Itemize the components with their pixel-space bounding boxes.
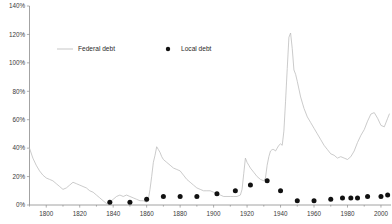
legend-label: Local debt: [181, 45, 212, 52]
data-point: [295, 198, 300, 203]
y-axis-tick-label: 140%: [9, 2, 26, 9]
data-point: [161, 194, 166, 199]
data-point: [385, 193, 390, 198]
x-axis: 1800182018401860188019001920194019601980…: [30, 205, 392, 217]
data-point: [378, 194, 383, 199]
legend-dot-swatch: [166, 47, 170, 51]
x-axis-tick-label: 1940: [274, 210, 289, 217]
x-axis-tick-label: 1800: [39, 210, 54, 217]
x-axis-tick-label: 1960: [307, 210, 322, 217]
x-axis-tick-label: 1880: [173, 210, 188, 217]
data-point: [214, 191, 219, 196]
y-axis-tick-label: 40%: [12, 144, 25, 151]
data-point: [178, 194, 183, 199]
data-point: [365, 194, 370, 199]
chart-legend: Federal debtLocal debt: [57, 45, 212, 52]
data-point: [248, 183, 253, 188]
plot-series: [30, 33, 391, 205]
data-point: [265, 178, 270, 183]
data-point: [233, 188, 238, 193]
x-axis-tick-label: 1840: [106, 210, 121, 217]
y-axis-tick-label: 0%: [16, 201, 26, 208]
y-axis-tick-label: 80%: [12, 88, 25, 95]
legend-label: Federal debt: [78, 45, 115, 52]
debt-to-gdp-chart: 0%20%40%60%80%100%120%140% 1800182018401…: [0, 0, 392, 224]
x-axis-tick-label: 1980: [340, 210, 355, 217]
x-axis-tick-label: 1860: [140, 210, 155, 217]
data-point: [107, 200, 112, 205]
x-axis-tick-label: 1900: [207, 210, 222, 217]
data-point: [127, 200, 132, 205]
data-point: [348, 195, 353, 200]
x-axis-tick-label: 2000: [374, 210, 389, 217]
y-axis-tick-label: 100%: [9, 59, 26, 66]
data-point: [144, 197, 149, 202]
y-axis-tick-label: 120%: [9, 31, 26, 38]
data-point: [312, 198, 317, 203]
data-point: [328, 197, 333, 202]
data-point: [355, 195, 360, 200]
y-axis: 0%20%40%60%80%100%120%140%: [9, 2, 30, 208]
data-point: [278, 188, 283, 193]
y-axis-tick-label: 60%: [12, 116, 25, 123]
x-axis-tick-label: 1920: [240, 210, 255, 217]
data-point: [194, 194, 199, 199]
y-axis-tick-label: 20%: [12, 173, 25, 180]
federal-debt-line: [30, 33, 390, 204]
x-axis-tick-label: 1820: [73, 210, 88, 217]
chart-canvas: 0%20%40%60%80%100%120%140% 1800182018401…: [0, 0, 392, 224]
data-point: [340, 195, 345, 200]
